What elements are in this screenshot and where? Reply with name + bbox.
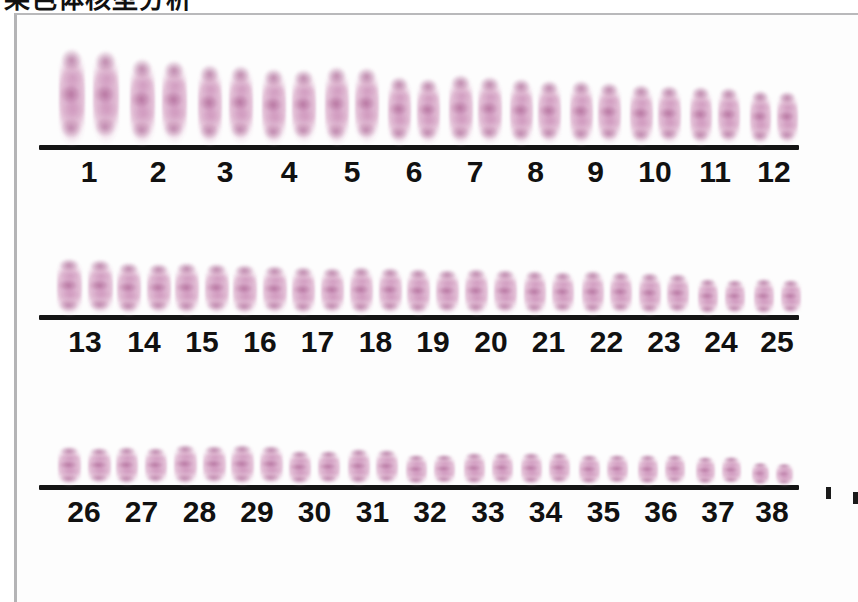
pair-label-21: 21 [521,324,576,360]
chromosome-pair-12 [748,90,800,146]
chromatid-25-1 [754,278,774,316]
chromosome-pair-22 [579,270,634,316]
chromosome-pair-36 [635,454,687,486]
pair-label-20: 20 [463,324,519,360]
chromatid-12-2 [777,91,798,145]
chromatid-36-2 [665,454,685,485]
chromosome-pair-14 [115,262,173,316]
chromatid-14-2 [147,263,171,315]
chromatid-21-1 [524,270,546,316]
chromatid-6-2 [417,78,440,145]
chromatid-14-1 [117,262,141,316]
chromatid-9-1 [570,80,593,146]
chromatid-37-1 [696,456,715,486]
pair-label-30: 30 [287,494,342,530]
pair-label-19: 19 [405,324,461,360]
chromatid-2-2 [162,60,187,144]
chromatid-4-2 [292,69,316,144]
chromatid-7-1 [449,74,473,146]
chromatid-17-2 [321,267,344,315]
chromatid-38-2 [776,463,793,486]
pair-label-37: 37 [693,494,743,530]
chromosome-pair-30 [287,450,342,486]
pair-label-25: 25 [751,324,803,360]
pair-label-38: 38 [749,494,795,530]
chromatid-33-1 [464,452,485,486]
pair-label-6: 6 [386,154,442,190]
chromosome-pair-19 [405,268,461,316]
pair-label-15: 15 [173,324,231,360]
chromatid-33-2 [492,452,513,485]
chromosome-pair-5 [323,66,381,146]
chromatid-31-2 [376,449,398,485]
chromatid-22-2 [610,271,632,315]
chromatid-16-1 [233,264,257,316]
chromatid-2-1 [130,58,155,146]
chromatid-12-1 [750,90,771,146]
chromatid-3-2 [229,65,253,144]
chromatid-11-1 [690,86,712,146]
chromatid-18-2 [379,267,402,315]
pair-label-1: 1 [57,154,121,190]
chromatid-29-1 [231,444,254,486]
pair-label-23: 23 [637,324,691,360]
chromatid-28-2 [203,445,226,485]
pair-label-10: 10 [628,154,682,190]
pair-label-3: 3 [195,154,255,190]
chromosome-pair-20 [463,268,519,316]
edge-speck-bottom [853,492,858,504]
chromosome-strip-row-2 [17,215,858,320]
pair-label-row-3: 26272829303132333435363738 [17,490,858,534]
pair-label-22: 22 [579,324,634,360]
chromatid-34-1 [521,452,542,486]
chromatid-17-1 [292,266,315,316]
chromatid-26-1 [58,446,81,486]
pair-label-29: 29 [229,494,285,530]
pair-label-27: 27 [113,494,170,530]
chromatid-37-2 [722,456,741,485]
figure-caption-strip: 染色体核型分析 [0,0,858,12]
chromosome-pair-16 [231,264,289,316]
chromatid-8-2 [538,80,561,145]
chromatid-19-1 [407,268,430,316]
chromosome-pair-33 [461,452,515,486]
chromosome-pair-18 [347,266,404,316]
chromatid-32-2 [434,454,455,485]
chromatid-1-2 [93,50,119,144]
chromosome-pair-23 [637,272,691,316]
chromatid-10-1 [630,84,653,146]
chromatid-27-2 [145,447,167,485]
chromosome-pair-38 [749,462,795,486]
pair-label-5: 5 [323,154,381,190]
chromosome-pair-25 [751,278,803,316]
chromatid-35-1 [579,454,600,486]
chromatid-24-1 [698,278,718,316]
pair-label-2: 2 [127,154,189,190]
pair-label-28: 28 [171,494,228,530]
chromosome-pair-13 [55,258,115,316]
chromatid-4-1 [262,68,286,146]
chromatid-1-1 [59,48,85,146]
chromatid-29-2 [260,445,283,485]
chromatid-23-1 [639,272,661,316]
chromosome-pair-15 [173,262,231,316]
chromosome-pair-26 [55,446,113,486]
chromatid-7-2 [478,76,502,145]
chromosome-pair-8 [508,78,563,146]
chromatid-15-2 [205,263,229,315]
pair-label-35: 35 [577,494,630,530]
pair-label-26: 26 [55,494,113,530]
pair-label-row-1: 123456789101112 [17,150,858,194]
chromatid-36-1 [638,454,658,486]
chromatid-27-1 [116,446,138,486]
pair-label-33: 33 [461,494,515,530]
chromatid-28-1 [174,444,197,486]
chromatid-35-2 [607,454,628,485]
chromatid-38-1 [752,462,769,486]
figure-caption-text: 染色体核型分析 [4,0,193,12]
chromosome-pair-17 [289,266,346,316]
chromatid-6-1 [388,76,411,146]
pair-label-16: 16 [231,324,289,360]
chromatid-23-2 [667,273,689,315]
chromosome-pair-1 [57,48,121,146]
